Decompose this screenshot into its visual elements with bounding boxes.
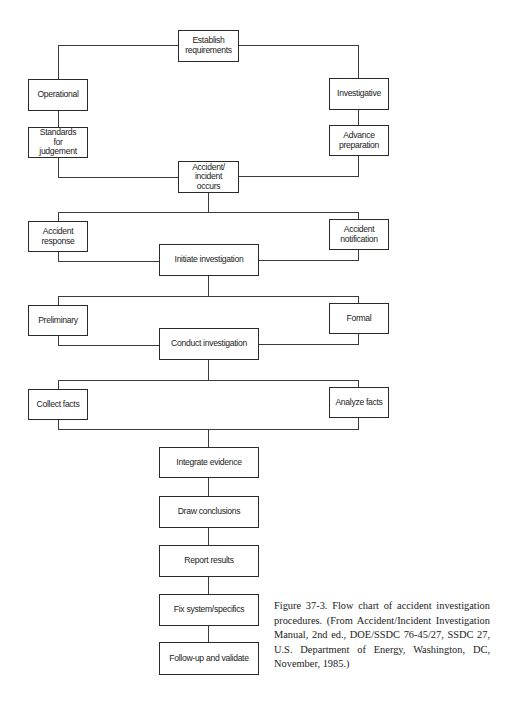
connector bbox=[358, 380, 359, 387]
flowchart: Establish requirements Operational Inves… bbox=[0, 0, 508, 708]
node-draw-conclusions: Draw conclusions bbox=[159, 496, 259, 528]
connector bbox=[58, 296, 359, 297]
connector bbox=[358, 212, 359, 219]
connector bbox=[208, 577, 209, 594]
node-preliminary: Preliminary bbox=[28, 305, 88, 336]
connector bbox=[358, 296, 359, 303]
node-conduct-investigation: Conduct investigation bbox=[159, 328, 259, 360]
connector bbox=[208, 478, 209, 496]
figure-caption: Figure 37-3. Flow chart of accident inve… bbox=[274, 599, 490, 672]
connector bbox=[208, 626, 209, 642]
node-follow-up-validate: Follow-up and validate bbox=[159, 642, 259, 675]
connector bbox=[238, 176, 359, 177]
connector bbox=[358, 250, 359, 260]
connector bbox=[358, 334, 359, 344]
connector bbox=[58, 380, 359, 381]
connector bbox=[58, 420, 59, 429]
connector bbox=[58, 212, 59, 221]
connector bbox=[58, 110, 59, 127]
node-analyze-facts: Analyze facts bbox=[329, 387, 389, 418]
connector bbox=[58, 336, 59, 345]
node-standards-for-judgement: Standards for judgement bbox=[28, 127, 88, 158]
node-accident-notification: Accident notification bbox=[329, 219, 389, 250]
node-advance-preparation: Advance preparation bbox=[329, 125, 389, 156]
connector bbox=[258, 344, 359, 345]
node-initiate-investigation: Initiate investigation bbox=[159, 244, 259, 276]
connector bbox=[58, 261, 159, 262]
connector bbox=[258, 260, 359, 261]
node-operational: Operational bbox=[28, 79, 88, 111]
connector bbox=[238, 45, 359, 46]
connector bbox=[58, 212, 359, 213]
connector bbox=[58, 345, 159, 346]
node-investigative: Investigative bbox=[329, 78, 389, 110]
connector bbox=[358, 156, 359, 176]
connector bbox=[358, 45, 359, 78]
connector bbox=[58, 45, 178, 46]
connector bbox=[58, 380, 59, 389]
connector bbox=[58, 177, 179, 178]
connector bbox=[208, 360, 209, 380]
connector bbox=[358, 109, 359, 125]
connector bbox=[208, 429, 209, 447]
node-accident-occurs: Accident/ incident occurs bbox=[178, 161, 239, 193]
connector bbox=[208, 193, 209, 212]
connector bbox=[208, 276, 209, 296]
connector bbox=[58, 45, 59, 79]
node-collect-facts: Collect facts bbox=[28, 389, 88, 420]
connector bbox=[58, 296, 59, 305]
node-fix-system: Fix system/specifics bbox=[159, 594, 259, 626]
node-formal: Formal bbox=[329, 303, 389, 334]
connector bbox=[358, 418, 359, 429]
node-accident-response: Accident response bbox=[28, 221, 88, 252]
node-establish-requirements: Establish requirements bbox=[178, 30, 239, 62]
connector bbox=[208, 528, 209, 545]
connector bbox=[58, 158, 59, 177]
node-report-results: Report results bbox=[159, 545, 259, 577]
node-integrate-evidence: Integrate evidence bbox=[159, 447, 259, 478]
connector bbox=[58, 252, 59, 261]
